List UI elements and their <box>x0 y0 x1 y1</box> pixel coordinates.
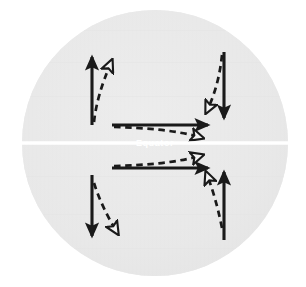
coriolis-figure: Equator Coriolis deflection diagram Inte… <box>0 0 306 287</box>
equator-label: Equator <box>136 138 174 148</box>
coriolis-diagram-svg: Equator <box>0 0 306 287</box>
